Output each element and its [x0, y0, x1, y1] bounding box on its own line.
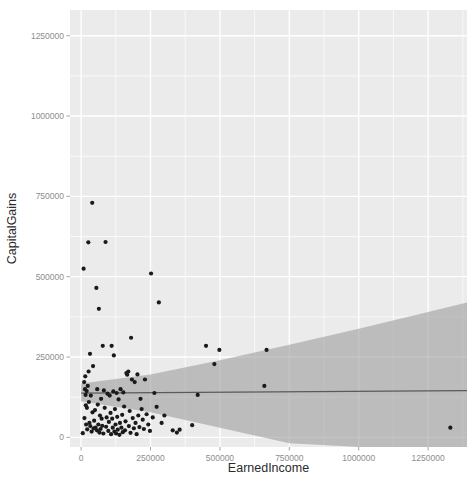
scatter-plot-figure: 025000050000075000010000001250000 025000…	[0, 0, 467, 485]
y-tick-label: 250000	[36, 352, 65, 362]
y-tick-label: 1250000	[31, 31, 64, 41]
x-tick-label: 0	[79, 453, 84, 463]
plot-svg: 025000050000075000010000001250000 025000…	[0, 0, 467, 485]
y-axis-tick-labels: 025000050000075000010000001250000	[31, 31, 64, 443]
y-axis-title: CapitalGains	[5, 193, 19, 265]
x-tick-label: 1250000	[412, 453, 445, 463]
y-tick-label: 750000	[36, 191, 65, 201]
y-tick-label: 1000000	[31, 111, 64, 121]
y-tick-label: 500000	[36, 272, 65, 282]
x-tick-label: 1000000	[342, 453, 375, 463]
x-tick-label: 250000	[136, 453, 165, 463]
x-axis-title: EarnedIncome	[228, 461, 309, 475]
y-tick-label: 0	[59, 432, 64, 442]
